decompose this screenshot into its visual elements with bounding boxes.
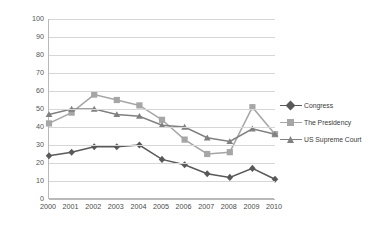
- y-tick-label: 30: [22, 141, 44, 149]
- y-tick-label: 80: [22, 51, 44, 59]
- legend-label-presidency: The Presidency: [302, 119, 351, 126]
- y-tick-label: 90: [22, 33, 44, 41]
- y-tick-label: 20: [22, 159, 44, 167]
- y-tick-label: 100: [22, 15, 44, 23]
- legend-marker-supreme-court: [280, 135, 302, 145]
- legend-item-congress: Congress: [280, 97, 377, 114]
- chart-container: percent answering "Great Deal"/"Quite A …: [0, 0, 379, 233]
- legend-item-presidency: The Presidency: [280, 114, 377, 131]
- legend-item-supreme-court: US Supreme Court: [280, 131, 377, 148]
- y-tick-label: 40: [22, 123, 44, 131]
- legend-marker-congress: [280, 101, 302, 111]
- x-tick-label: 2010: [261, 202, 287, 211]
- legend-label-congress: Congress: [302, 102, 333, 109]
- y-tick-label: 50: [22, 105, 44, 113]
- y-tick-label: 60: [22, 87, 44, 95]
- chart-legend: Congress The Presidency US Supreme Court: [280, 97, 377, 148]
- y-tick-label: 70: [22, 69, 44, 77]
- x-axis-ticks: 2000200120022003200420052006200720082009…: [48, 0, 274, 233]
- y-tick-label: 10: [22, 177, 44, 185]
- legend-label-supreme-court: US Supreme Court: [302, 136, 361, 143]
- y-axis-ticks: 1009080706050403020100: [22, 0, 44, 233]
- legend-marker-presidency: [280, 118, 302, 128]
